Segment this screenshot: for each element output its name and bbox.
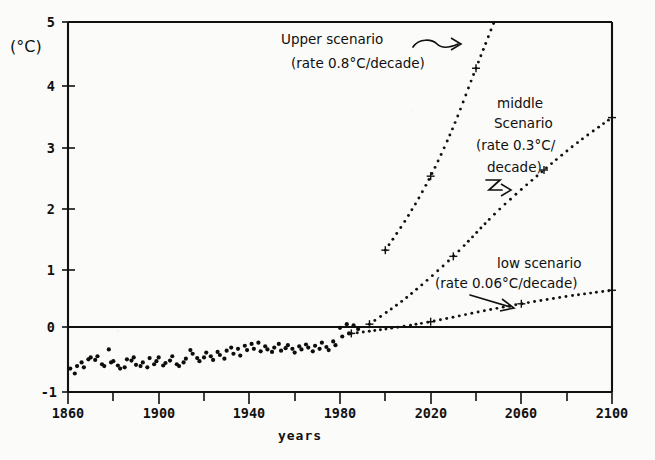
observed-data-point <box>299 347 303 351</box>
observed-data-point <box>184 357 188 361</box>
scenario-dot <box>434 166 437 169</box>
low-scenario-annotation: low scenario (rate 0.06°C/decade) <box>435 255 582 311</box>
observed-data-point <box>75 364 79 368</box>
observed-data-point <box>272 346 276 350</box>
x-tick-label-1940: 1940 <box>233 405 266 421</box>
observed-data-point <box>238 354 242 358</box>
observed-data-point <box>311 349 315 353</box>
observed-data-point <box>107 347 111 351</box>
scenario-dot <box>373 329 376 332</box>
scenario-dot <box>498 208 501 211</box>
scenario-dot <box>443 146 446 149</box>
observed-data-point <box>163 361 167 365</box>
observed-data-point <box>111 359 115 363</box>
scenario-dot <box>601 290 604 293</box>
observed-data-point <box>327 348 331 352</box>
scenario-dot <box>456 115 459 118</box>
observed-data-point <box>89 355 93 359</box>
scenario-dot <box>571 294 574 297</box>
scenario-dot <box>479 54 482 57</box>
scenario-dot <box>447 260 450 263</box>
scenario-dot <box>420 322 423 325</box>
middle-scenario-label-line4: decade) <box>487 159 542 175</box>
scenario-dot <box>514 193 517 196</box>
observed-data-point <box>168 358 172 362</box>
y-tick-label-4: 4 <box>47 78 55 94</box>
scenario-dot <box>530 179 533 182</box>
x-tick-label-1900: 1900 <box>143 405 176 421</box>
observed-data-point <box>293 350 297 354</box>
observed-data-point <box>229 346 233 350</box>
scenario-dot <box>467 87 470 90</box>
observed-data-scatter <box>68 322 360 376</box>
observed-data-point <box>231 352 235 356</box>
scenario-dot <box>477 311 480 314</box>
scenario-dot <box>492 22 495 25</box>
scenario-dot <box>457 249 460 252</box>
scenario-dot <box>581 137 584 140</box>
observed-data-point <box>277 342 281 346</box>
scenario-dot <box>495 307 498 310</box>
scenario-dot <box>484 42 487 45</box>
observed-data-point <box>145 365 149 369</box>
scenario-dot <box>462 101 465 104</box>
scenario-dot <box>565 150 568 153</box>
scenario-dot <box>464 313 467 316</box>
scenario-dot <box>550 162 553 165</box>
scenario-dot <box>533 300 536 303</box>
observed-data-point <box>188 348 192 352</box>
y-tick-label-0: 0 <box>47 319 55 335</box>
scenario-dot <box>414 202 417 205</box>
scenario-dot <box>520 188 523 191</box>
scenario-dot <box>477 61 480 64</box>
scenario-dot <box>439 318 442 321</box>
observed-data-point <box>333 343 337 347</box>
scenario-dot <box>602 122 605 125</box>
scenario-dot <box>390 327 393 330</box>
scenario-dot <box>470 312 473 315</box>
x-tick-label-2020: 2020 <box>415 405 448 421</box>
observed-data-point <box>270 350 274 354</box>
x-tick-label-2100: 2100 <box>596 405 629 421</box>
scenario-dot <box>395 304 398 307</box>
observed-data-point <box>356 327 360 331</box>
observed-data-point <box>218 353 222 357</box>
scenario-dot <box>546 298 549 301</box>
middle-scenario-label-line2: Scenario <box>494 115 553 131</box>
scenario-dot <box>509 198 512 201</box>
observed-data-point <box>236 347 240 351</box>
scenario-dot <box>586 134 589 137</box>
observed-data-point <box>306 346 310 350</box>
scenario-dot <box>583 292 586 295</box>
observed-data-point <box>245 348 249 352</box>
observed-data-point <box>191 352 195 356</box>
observed-data-point <box>256 341 260 345</box>
observed-data-point <box>132 355 136 359</box>
scenario-dot <box>400 300 403 303</box>
observed-data-point <box>290 347 294 351</box>
y-tick-label-5: 5 <box>47 14 55 30</box>
scenario-dot <box>484 222 487 225</box>
scenario-dot <box>431 274 434 277</box>
scenario-dot <box>379 328 382 331</box>
observed-data-point <box>138 364 142 368</box>
scenario-dot <box>410 208 413 211</box>
scenario-dot <box>458 314 461 317</box>
observed-data-point <box>157 355 161 359</box>
observed-data-point <box>73 371 77 375</box>
middle-scenario-label-line3: (rate 0.3°C/ <box>476 137 556 153</box>
upper-scenario-annotation: Upper scenario (rate 0.8°C/decade) <box>281 31 461 71</box>
scenario-dot <box>463 244 466 247</box>
scenario-dot <box>388 243 391 246</box>
x-tick-label-2060: 2060 <box>505 405 538 421</box>
observed-data-point <box>154 359 158 363</box>
scenario-dot <box>514 303 517 306</box>
axis-frame-path <box>68 22 612 392</box>
observed-data-point <box>95 354 99 358</box>
observed-data-point <box>123 365 127 369</box>
scenario-dot <box>472 73 475 76</box>
y-tick-label-2: 2 <box>47 201 55 217</box>
scenario-dot <box>396 326 399 329</box>
observed-data-point <box>225 349 229 353</box>
observed-data-point <box>177 364 181 368</box>
